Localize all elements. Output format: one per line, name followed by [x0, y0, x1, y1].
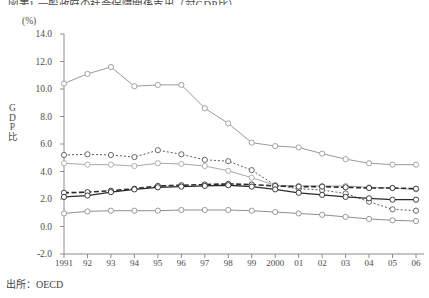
- chart-series: [61, 181, 418, 195]
- series-marker: [249, 168, 254, 173]
- chart-series: [61, 207, 418, 223]
- x-axis-tick-label: 99: [247, 258, 256, 268]
- y-axis-tick-label: 10.0: [18, 84, 52, 94]
- series-marker: [273, 143, 278, 148]
- series-marker: [413, 208, 418, 213]
- series-marker: [249, 140, 254, 145]
- series-marker: [320, 212, 325, 217]
- series-marker: [202, 157, 207, 162]
- series-marker: [226, 183, 231, 188]
- series-marker: [132, 84, 137, 89]
- source-note: 出所：OECD: [6, 276, 63, 291]
- chart-series: [61, 64, 418, 167]
- series-marker: [366, 161, 371, 166]
- x-axis-tick-label: 02: [318, 258, 327, 268]
- series-marker: [366, 196, 371, 201]
- x-axis-tick-label: 01: [294, 258, 303, 268]
- series-marker: [390, 185, 395, 190]
- series-line: [64, 150, 416, 211]
- x-axis-tick-label: 97: [200, 258, 209, 268]
- series-marker: [132, 187, 137, 192]
- series-marker: [296, 145, 301, 150]
- y-axis-tick-label: 2.0: [18, 194, 52, 204]
- series-marker: [179, 184, 184, 189]
- series-marker: [155, 185, 160, 190]
- y-axis-tick-label: 8.0: [18, 112, 52, 122]
- series-line: [64, 67, 416, 165]
- series-marker: [108, 208, 113, 213]
- series-marker: [343, 185, 348, 190]
- series-marker: [108, 64, 113, 69]
- chart-figure: 図表1 一般政府の社会保障関係支出（対GDP比） (%) G D P 比 14.…: [0, 0, 429, 298]
- chart-series: [61, 148, 418, 214]
- series-marker: [390, 162, 395, 167]
- series-marker: [108, 162, 113, 167]
- series-marker: [390, 207, 395, 212]
- y-axis-tick-label: -2.0: [18, 249, 52, 259]
- series-marker: [108, 190, 113, 195]
- series-marker: [61, 81, 66, 86]
- series-marker: [320, 151, 325, 156]
- x-axis-tick-label: 04: [365, 258, 374, 268]
- series-marker: [202, 183, 207, 188]
- series-marker: [85, 71, 90, 76]
- series-marker: [249, 208, 254, 213]
- plot-area: [0, 0, 429, 298]
- x-axis-tick-label: 95: [153, 258, 162, 268]
- series-marker: [202, 163, 207, 168]
- x-axis-tick-label: 98: [224, 258, 233, 268]
- series-marker: [202, 106, 207, 111]
- series-marker: [226, 168, 231, 173]
- y-axis-tick-label: 12.0: [18, 57, 52, 67]
- series-marker: [179, 161, 184, 166]
- series-marker: [85, 193, 90, 198]
- series-marker: [249, 184, 254, 189]
- series-marker: [85, 152, 90, 157]
- series-marker: [155, 82, 160, 87]
- series-marker: [390, 197, 395, 202]
- x-axis-tick-label: 92: [83, 258, 92, 268]
- series-marker: [296, 184, 301, 189]
- x-axis-tick-label: 96: [177, 258, 186, 268]
- series-marker: [343, 194, 348, 199]
- series-marker: [413, 162, 418, 167]
- series-marker: [296, 190, 301, 195]
- x-axis-tick-label: 1991: [55, 258, 73, 268]
- series-marker: [61, 161, 66, 166]
- series-marker: [249, 175, 254, 180]
- series-marker: [179, 207, 184, 212]
- series-marker: [179, 152, 184, 157]
- series-marker: [132, 163, 137, 168]
- x-axis-tick-label: 93: [106, 258, 115, 268]
- series-marker: [85, 162, 90, 167]
- series-marker: [179, 82, 184, 87]
- series-marker: [155, 148, 160, 153]
- series-marker: [61, 152, 66, 157]
- chart-series: [61, 183, 418, 203]
- x-axis-tick-label: 06: [412, 258, 421, 268]
- series-marker: [132, 154, 137, 159]
- y-axis-tick-label: 6.0: [18, 139, 52, 149]
- series-marker: [273, 209, 278, 214]
- series-marker: [202, 207, 207, 212]
- series-marker: [343, 214, 348, 219]
- series-marker: [155, 161, 160, 166]
- x-axis-tick-label: 05: [388, 258, 397, 268]
- series-marker: [366, 216, 371, 221]
- series-marker: [226, 159, 231, 164]
- series-line: [64, 210, 416, 221]
- y-axis-tick-label: 0.0: [18, 222, 52, 232]
- series-marker: [108, 152, 113, 157]
- x-axis-tick-label: 03: [341, 258, 350, 268]
- series-marker: [226, 207, 231, 212]
- series-marker: [320, 184, 325, 189]
- series-marker: [132, 208, 137, 213]
- y-axis-tick-label: 14.0: [18, 29, 52, 39]
- series-marker: [413, 197, 418, 202]
- series-marker: [61, 194, 66, 199]
- series-marker: [413, 218, 418, 223]
- y-axis-tick-label: 4.0: [18, 167, 52, 177]
- x-axis-tick-label: 2000: [266, 258, 284, 268]
- series-marker: [61, 211, 66, 216]
- series-marker: [85, 209, 90, 214]
